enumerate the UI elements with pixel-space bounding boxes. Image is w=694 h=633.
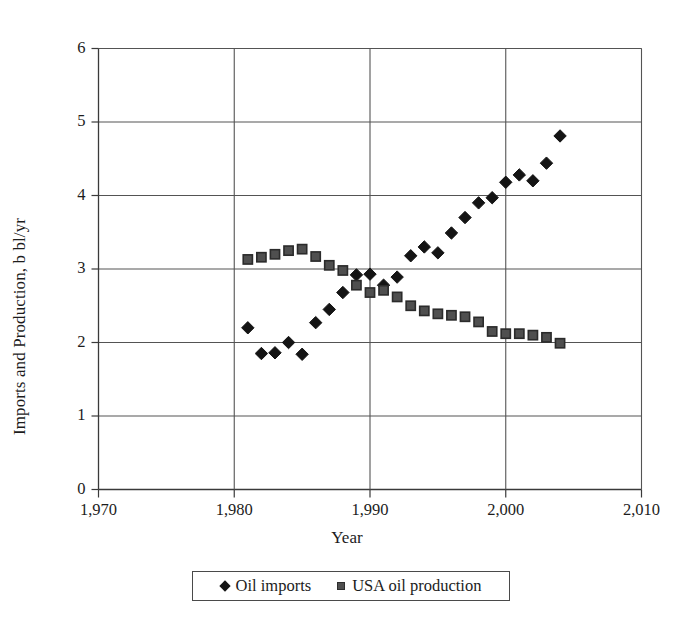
chart-figure: Imports and Production, b bl/yr Year 012… <box>0 0 694 633</box>
data-point-diamond <box>310 316 322 328</box>
data-point-square <box>270 250 279 259</box>
data-point-diamond <box>540 157 552 169</box>
y-tick-label: 3 <box>46 258 86 278</box>
data-point-diamond <box>269 347 281 359</box>
data-point-diamond <box>296 348 308 360</box>
legend-label-oil-imports: Oil imports <box>236 576 312 596</box>
x-tick-label: 1,990 <box>325 500 415 520</box>
data-point-diamond <box>364 268 376 280</box>
data-point-square <box>488 327 497 336</box>
x-axis-title-text: Year <box>331 528 363 547</box>
x-tick-label: 2,000 <box>461 500 551 520</box>
data-point-diamond <box>445 227 457 239</box>
data-point-diamond <box>472 197 484 209</box>
data-point-diamond <box>486 192 498 204</box>
data-point-square <box>542 333 551 342</box>
diamond-marker-icon <box>219 580 230 591</box>
data-point-square <box>365 288 374 297</box>
data-point-square <box>325 261 334 270</box>
x-axis-title: Year <box>0 528 694 548</box>
chart-legend: Oil imports USA oil production <box>192 571 510 601</box>
data-point-diamond <box>418 241 430 253</box>
data-point-diamond <box>255 347 267 359</box>
data-point-square <box>555 339 564 348</box>
data-point-diamond <box>337 286 349 298</box>
data-point-diamond <box>350 269 362 281</box>
data-point-square <box>501 329 510 338</box>
data-point-square <box>528 331 537 340</box>
data-point-square <box>420 306 429 315</box>
data-point-square <box>447 311 456 320</box>
data-point-square <box>379 286 388 295</box>
x-tick-label: 1,980 <box>189 500 279 520</box>
y-tick-label: 4 <box>46 185 86 205</box>
data-point-diamond <box>391 271 403 283</box>
series-usa-oil-production <box>243 245 564 348</box>
data-point-square <box>460 312 469 321</box>
y-tick-label: 5 <box>46 111 86 131</box>
data-point-square <box>406 301 415 310</box>
data-point-diamond <box>500 176 512 188</box>
data-point-square <box>474 317 483 326</box>
y-tick-label: 1 <box>46 405 86 425</box>
y-tick-label: 2 <box>46 332 86 352</box>
data-point-square <box>393 292 402 301</box>
x-tick-label: 1,970 <box>54 500 144 520</box>
data-point-square <box>338 266 347 275</box>
data-point-diamond <box>513 169 525 181</box>
data-point-diamond <box>405 250 417 262</box>
legend-item-oil-imports: Oil imports <box>221 576 312 596</box>
square-marker-icon <box>337 582 345 590</box>
data-point-square <box>433 309 442 318</box>
y-axis-title-text: Imports and Production, b bl/yr <box>10 218 30 435</box>
data-point-diamond <box>459 211 471 223</box>
y-tick-label: 0 <box>46 479 86 499</box>
data-point-square <box>298 245 307 254</box>
data-point-diamond <box>432 247 444 259</box>
data-point-diamond <box>323 303 335 315</box>
legend-label-usa-oil-production: USA oil production <box>352 576 481 596</box>
data-point-square <box>352 281 361 290</box>
data-point-diamond <box>242 322 254 334</box>
data-point-diamond <box>527 175 539 187</box>
data-point-square <box>311 252 320 261</box>
data-point-diamond <box>554 130 566 142</box>
data-point-square <box>243 255 252 264</box>
data-point-diamond <box>282 336 294 348</box>
legend-item-usa-oil-production: USA oil production <box>337 576 481 596</box>
x-tick-label: 2,010 <box>597 500 687 520</box>
y-tick-label: 6 <box>46 38 86 58</box>
data-point-square <box>284 246 293 255</box>
data-point-square <box>257 253 266 262</box>
series-oil-imports <box>242 130 567 361</box>
data-point-square <box>515 329 524 338</box>
